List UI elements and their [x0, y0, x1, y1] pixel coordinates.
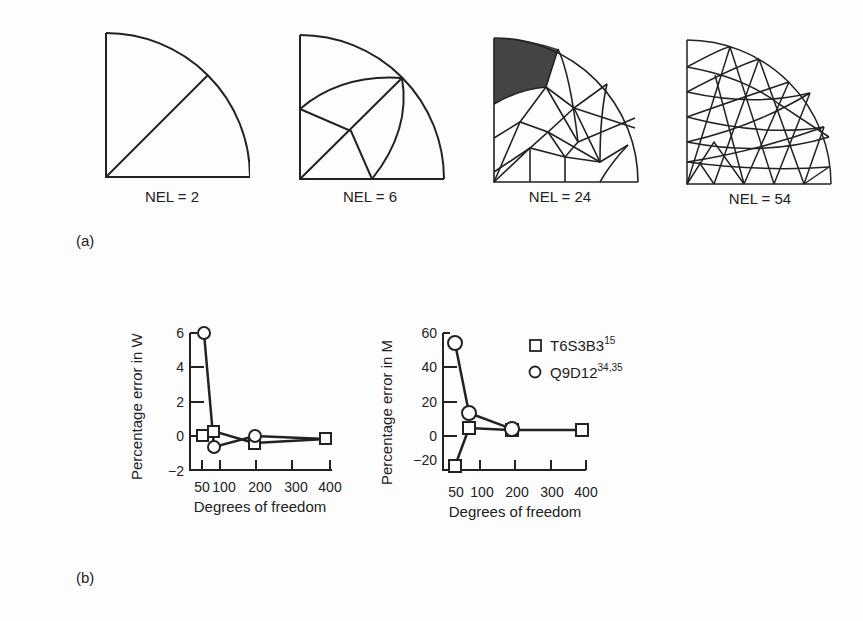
svg-text:300: 300	[284, 479, 308, 495]
panel-label-b: (b)	[76, 569, 94, 586]
svg-text:200: 200	[248, 479, 272, 495]
legend: T6S3B315 Q9D1234,35	[530, 335, 623, 381]
svg-text:40: 40	[421, 359, 437, 375]
svg-text:4: 4	[176, 359, 184, 375]
svg-text:−2: −2	[168, 463, 184, 479]
mesh-label-nel-6: NEL = 6	[300, 188, 440, 205]
mesh-nel-6	[296, 30, 446, 185]
svg-text:400: 400	[574, 484, 598, 500]
chart-error-w: Percentage error in W 6420−2 50100200300…	[120, 290, 350, 530]
svg-text:100: 100	[212, 479, 236, 495]
svg-text:6: 6	[176, 325, 184, 341]
y-axis-label-m: Percentage error in M	[378, 340, 395, 485]
svg-text:200: 200	[505, 484, 529, 500]
svg-text:2: 2	[176, 394, 184, 410]
panel-label-a: (a)	[76, 232, 94, 249]
mesh-nel-24	[490, 34, 640, 184]
x-ticks-w: 50100200300400	[194, 479, 342, 495]
svg-text:50: 50	[448, 484, 464, 500]
x-ticks-m: 50100200300400	[448, 484, 598, 500]
svg-text:60: 60	[421, 325, 437, 341]
legend-item-q9d12: Q9D1234,35	[550, 362, 623, 381]
mesh-label-nel-24: NEL = 24	[490, 188, 630, 205]
mesh-label-nel-2: NEL = 2	[102, 188, 242, 205]
legend-square-icon	[530, 340, 541, 351]
mesh-label-nel-54: NEL = 54	[690, 190, 830, 207]
y-ticks-w: 6420−2	[168, 325, 184, 479]
x-axis-label-m: Degrees of freedom	[449, 503, 582, 520]
series-q9d12-w	[204, 333, 326, 447]
svg-text:0: 0	[429, 428, 437, 444]
legend-item-t6s3b3: T6S3B315	[550, 335, 616, 354]
y-ticks-m: 6040200−20	[413, 325, 437, 468]
svg-text:50: 50	[194, 479, 210, 495]
x-axis-label-w: Degrees of freedom	[194, 498, 327, 515]
svg-text:20: 20	[421, 394, 437, 410]
y-axis-label-w: Percentage error in W	[128, 332, 145, 480]
svg-text:300: 300	[540, 484, 564, 500]
svg-text:100: 100	[470, 484, 494, 500]
svg-text:400: 400	[318, 479, 342, 495]
mesh-nel-2	[100, 28, 250, 183]
legend-circle-icon	[530, 367, 541, 378]
svg-text:0: 0	[176, 428, 184, 444]
mesh-nel-54	[684, 37, 834, 187]
chart-error-m: Percentage error in M 6040200−20 5010020…	[370, 290, 660, 530]
svg-text:−20: −20	[413, 452, 437, 468]
